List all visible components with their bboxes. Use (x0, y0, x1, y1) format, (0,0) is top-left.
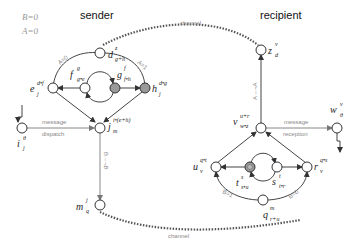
svg-text:d: d (275, 52, 279, 58)
svg-text:f: f (70, 69, 74, 80)
label-r: r q•s v (314, 157, 328, 174)
output-arrow-w (337, 133, 340, 152)
label-e: e d•f j (30, 80, 45, 97)
svg-text:s•u: s•u (241, 184, 248, 190)
label-m: m j q (76, 197, 89, 214)
svg-text:u: u (193, 161, 198, 172)
svg-text:q•t: q•t (200, 157, 207, 163)
recipient-title: recipient (260, 9, 302, 21)
svg-text:e: e (30, 83, 35, 94)
svg-text:m: m (270, 205, 275, 211)
node-r[interactable] (302, 162, 312, 172)
node-s[interactable] (272, 162, 282, 172)
svg-text:i: i (17, 138, 20, 149)
svg-text:g: g (117, 69, 122, 80)
label-j: j i•(e+h) m (106, 117, 130, 134)
channel-top-label: channel (180, 20, 201, 26)
node-v[interactable] (256, 123, 266, 133)
svg-text:v: v (340, 101, 343, 107)
svg-text:θ: θ (23, 135, 26, 141)
svg-text:w: w (330, 104, 337, 115)
svg-text:f•h: f•h (124, 76, 131, 82)
svg-text:v: v (275, 41, 278, 47)
svg-text:t: t (236, 177, 239, 188)
svg-text:j: j (36, 91, 39, 97)
svg-text:m: m (113, 128, 118, 134)
node-q[interactable] (258, 195, 268, 205)
svg-text:g: g (77, 65, 80, 71)
label-message-dispatch-1: message (42, 119, 67, 125)
channel-bottom-label: channel (168, 233, 189, 239)
svg-text:q•s: q•s (320, 157, 328, 163)
svg-text:θ: θ (340, 112, 343, 118)
svg-text:j: j (106, 121, 111, 132)
label-z: z v d (267, 41, 279, 58)
flag-b: B=0 (22, 12, 39, 22)
svg-text:i•(e+h): i•(e+h) (113, 117, 130, 124)
label-g: g f f•h (117, 65, 131, 82)
label-b-not-b: B→¬B (103, 152, 109, 170)
svg-text:r: r (314, 161, 318, 172)
node-u[interactable] (211, 162, 221, 172)
svg-text:j: j (85, 197, 88, 203)
svg-text:d•g: d•g (159, 80, 167, 86)
node-h[interactable] (140, 83, 150, 93)
label-a-not-a: A→¬A (252, 82, 258, 100)
svg-text:w•z: w•z (240, 123, 249, 129)
label-message-dispatch-2: dispatch (42, 131, 64, 137)
edge-t-s-top (251, 153, 275, 163)
svg-text:v: v (233, 116, 238, 127)
svg-text:d•f: d•f (37, 80, 45, 86)
node-t-inner (248, 165, 253, 170)
svg-text:j: j (22, 145, 25, 151)
label-a1: A=1 (136, 59, 149, 71)
label-d: d z g+h (108, 45, 125, 62)
node-w[interactable] (332, 123, 342, 133)
label-w: w v θ (330, 101, 343, 118)
edge-u-v (217, 132, 256, 163)
svg-text:g•e: g•e (77, 76, 85, 82)
label-v: v u+r w•z (233, 113, 250, 129)
node-j[interactable] (95, 123, 105, 133)
node-e[interactable] (48, 83, 58, 93)
label-i: i θ j (17, 135, 26, 151)
sender-title: sender (80, 9, 114, 21)
svg-text:t: t (279, 173, 281, 179)
node-g[interactable] (110, 83, 120, 93)
node-d[interactable] (95, 48, 105, 58)
input-arrow-i (18, 105, 22, 122)
svg-text:m: m (76, 201, 83, 212)
svg-text:z: z (267, 45, 272, 56)
svg-text:r+u: r+u (270, 216, 279, 222)
channel-top-line (103, 24, 258, 45)
label-h: h d•g j (152, 80, 167, 97)
svg-text:s: s (272, 176, 276, 187)
svg-text:g+h: g+h (115, 56, 125, 62)
svg-text:f: f (124, 65, 127, 71)
flag-a: A=0 (21, 26, 39, 36)
label-f: f g g•e (70, 65, 85, 82)
svg-text:j: j (158, 91, 161, 97)
label-b1: B=1 (222, 188, 235, 198)
sender-recipient-diagram: B=0 A=0 sender recipient channel channel… (0, 0, 362, 242)
svg-text:d: d (108, 49, 114, 60)
svg-text:s: s (241, 174, 244, 180)
node-z[interactable] (256, 45, 266, 55)
label-message-reception-2: reception (283, 131, 308, 137)
node-m[interactable] (95, 200, 105, 210)
svg-text:v: v (320, 168, 323, 174)
label-message-reception-1: message (284, 119, 309, 125)
node-f[interactable] (80, 83, 90, 93)
label-t: t s s•u (236, 174, 248, 190)
svg-text:q: q (263, 209, 268, 220)
node-i[interactable] (17, 123, 27, 133)
edge-f-g-top (87, 72, 113, 83)
svg-text:q: q (86, 208, 89, 214)
label-u: u q•t v (193, 157, 207, 174)
label-q: q m r+u (263, 205, 279, 222)
svg-text:h: h (152, 83, 157, 94)
svg-text:z: z (114, 45, 118, 51)
edge-e-j (56, 92, 95, 122)
edge-g-f-bottom (87, 93, 113, 102)
svg-text:t•r: t•r (279, 183, 286, 189)
